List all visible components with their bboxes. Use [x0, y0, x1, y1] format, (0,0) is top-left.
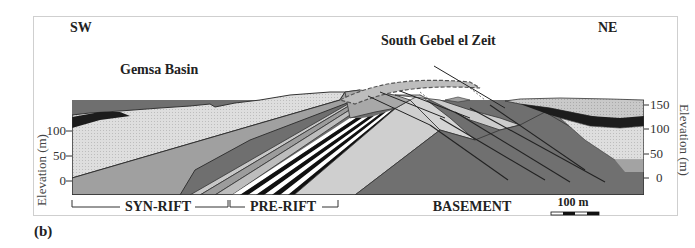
- left-axis-title: Elevation (m): [34, 134, 49, 206]
- right-tick-50: 50: [650, 146, 663, 161]
- cross-section: [72, 90, 644, 195]
- panel-label: (b): [34, 223, 52, 240]
- scale-bar: 100 m: [551, 195, 599, 215]
- direction-ne: NE: [598, 20, 617, 35]
- left-tick-100: 100: [47, 123, 67, 138]
- cross-section-diagram: SW NE Gemsa Basin South Gebel el Zeit El…: [0, 0, 695, 248]
- unit-basement: BASEMENT: [433, 199, 512, 214]
- location-south-gebel-el-zeit: South Gebel el Zeit: [381, 33, 496, 48]
- unit-syn-rift: SYN-RIFT: [125, 199, 192, 214]
- right-tick-0: 0: [656, 170, 663, 185]
- right-elevation-axis: 150 100 50 0 Elevation (m): [644, 97, 692, 185]
- location-gemsa-basin: Gemsa Basin: [120, 62, 198, 77]
- left-tick-50: 50: [53, 148, 66, 163]
- left-tick-0: 0: [60, 173, 67, 188]
- left-elevation-axis: Elevation (m) 100 50 0: [34, 123, 72, 206]
- scale-bar-label: 100 m: [558, 195, 589, 209]
- unit-pre-rift: PRE-RIFT: [250, 199, 317, 214]
- right-tick-100: 100: [650, 121, 670, 136]
- right-axis-title: Elevation (m): [677, 104, 692, 176]
- right-tick-150: 150: [650, 97, 670, 112]
- direction-sw: SW: [70, 20, 92, 35]
